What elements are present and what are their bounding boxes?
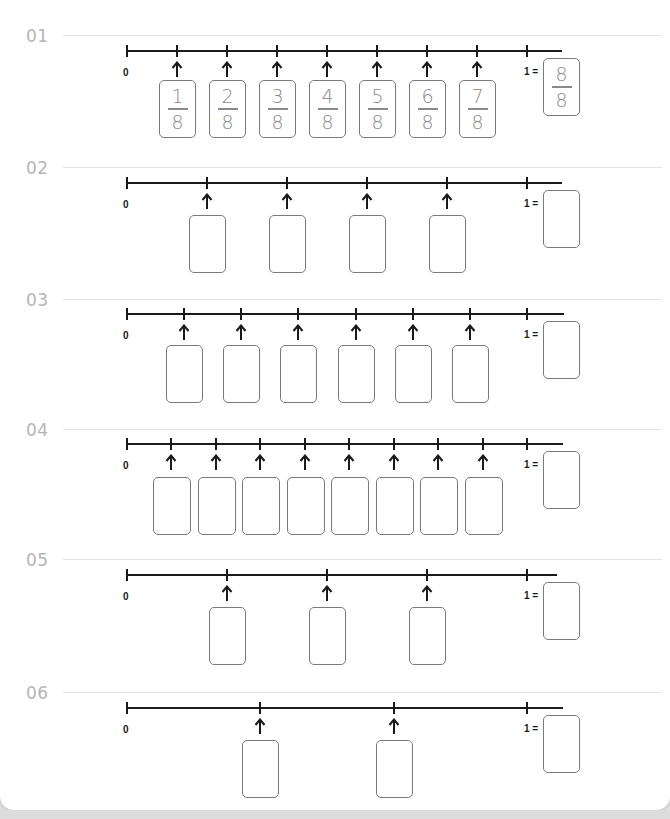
section-number: 06 [26,683,49,703]
fraction-numerator: 6 [421,86,433,106]
exercise-section-01: 0101 = 1 8 2 8 3 8 4 [0,26,670,156]
zero-label: 0 [123,724,129,735]
zero-label: 0 [123,67,129,78]
number-line [127,313,564,315]
fraction-answer-box[interactable]: 5 8 [359,80,396,138]
fraction-answer-box[interactable]: 4 8 [309,80,346,138]
whole-answer-box[interactable] [543,321,580,379]
number-line [127,574,557,576]
whole-answer-box[interactable]: 8 8 [543,58,580,116]
fraction-answer-box[interactable] [242,740,279,798]
fraction-answer-box[interactable] [153,477,191,535]
section-number: 02 [26,158,49,178]
fraction-answer-box[interactable] [395,345,432,403]
fraction-answer-box[interactable] [338,345,375,403]
arrow-up-icon [470,61,484,77]
exercise-section-03: 0301 = [0,290,670,420]
fraction-numerator: 5 [371,86,383,106]
tick-mark [304,438,306,450]
fraction-answer-box[interactable] [198,477,236,535]
fraction-answer-box[interactable] [223,345,260,403]
arrow-up-icon [320,61,334,77]
fraction-numerator: 4 [321,86,333,106]
tick-mark [355,308,357,320]
fraction-denominator: 8 [555,90,567,110]
fraction-bar [318,108,338,110]
tick-mark [126,45,128,57]
fraction-answer-box[interactable] [376,477,414,535]
section-divider [63,299,662,300]
tick-mark [206,177,208,189]
tick-mark [170,438,172,450]
fraction-answer-box[interactable] [189,215,226,273]
fraction-answer-box[interactable] [409,607,446,665]
fraction-denominator: 8 [171,112,183,132]
whole-answer-box[interactable] [543,190,580,248]
fraction-answer-box[interactable] [452,345,489,403]
whole-answer-box[interactable] [543,451,580,509]
arrow-up-icon [360,193,374,209]
section-divider [63,692,662,693]
arrow-up-icon [209,454,223,470]
one-label: 1 = [524,723,538,734]
fraction-answer-box[interactable] [429,215,466,273]
tick-mark [259,438,261,450]
arrow-up-icon [220,585,234,601]
arrow-up-icon [320,585,334,601]
arrow-up-icon [431,454,445,470]
fraction-answer-box[interactable] [280,345,317,403]
fraction-answer-box[interactable]: 7 8 [459,80,496,138]
fraction-answer-box[interactable] [242,477,280,535]
whole-answer-box[interactable] [543,715,580,773]
fraction-answer-box[interactable] [376,740,413,798]
fraction-answer-box[interactable] [465,477,503,535]
fraction-denominator: 8 [221,112,233,132]
fraction-numerator: 7 [471,86,483,106]
fraction-answer-box[interactable] [420,477,458,535]
tick-mark [426,45,428,57]
tick-mark [446,177,448,189]
arrow-up-icon [253,718,267,734]
number-line [127,707,563,709]
fraction-answer-box[interactable]: 1 8 [159,80,196,138]
tick-mark [215,438,217,450]
arrow-up-icon [476,454,490,470]
arrow-up-icon [420,61,434,77]
fraction-numerator: 1 [171,86,183,106]
tick-mark [326,45,328,57]
fraction-answer-box[interactable] [269,215,306,273]
exercise-section-06: 0601 = [0,683,670,813]
tick-mark [476,45,478,57]
fraction-answer-box[interactable] [287,477,325,535]
arrow-up-icon [291,324,305,340]
fraction-bar [552,86,572,88]
page-bottom-edge [0,810,670,819]
section-number: 04 [26,420,49,440]
arrow-up-icon [298,454,312,470]
tick-mark [259,702,261,714]
tick-mark [526,569,528,581]
section-number: 01 [26,26,49,46]
arrow-up-icon [420,585,434,601]
fraction-answer-box[interactable] [166,345,203,403]
fraction-numerator: 2 [221,86,233,106]
tick-mark [393,438,395,450]
fraction-answer-box[interactable]: 6 8 [409,80,446,138]
section-divider [63,429,662,430]
fraction-answer-box[interactable]: 3 8 [259,80,296,138]
fraction-denominator: 8 [271,112,283,132]
whole-answer-box[interactable] [543,582,580,640]
section-divider [63,35,662,36]
tick-mark [526,308,528,320]
tick-mark [526,177,528,189]
fraction-answer-box[interactable] [209,607,246,665]
tick-mark [126,569,128,581]
fraction-answer-box[interactable] [349,215,386,273]
fraction-answer-box[interactable] [309,607,346,665]
tick-mark [376,45,378,57]
arrow-up-icon [200,193,214,209]
arrow-up-icon [253,454,267,470]
tick-mark [348,438,350,450]
fraction-answer-box[interactable]: 2 8 [209,80,246,138]
fraction-answer-box[interactable] [331,477,369,535]
